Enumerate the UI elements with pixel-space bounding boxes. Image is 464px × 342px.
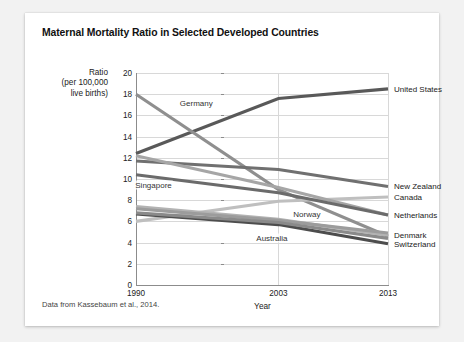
y-axis-title-line-3: live births) [45,89,108,99]
y-axis-title-line-2: (per 100,000 [45,78,108,88]
y-tick-label-2: 2 [127,259,132,268]
y-tick-mark-8 [221,200,224,201]
series-label-australia: Australia [255,234,288,243]
plot-area [136,73,388,285]
y-tick-label-18: 18 [123,90,132,99]
y-tick-label-14: 14 [123,132,132,141]
series-label-united-states: United States [394,84,442,93]
gridline-y-10 [136,179,388,180]
y-tick-mark-0 [221,285,224,286]
gridline-y-14 [136,137,388,138]
y-tick-label-20: 20 [123,69,132,78]
gridline-y-12 [136,158,388,159]
x-tick-label-2013: 2013 [379,289,397,298]
series-label-switzerland: Switzerland [394,239,435,248]
series-label-singapore: Singapore [134,181,172,190]
x-tick-label-2003: 2003 [269,289,287,298]
y-tick-label-16: 16 [123,111,132,120]
gridline-y-8 [136,200,388,201]
screenshot-canvas: Maternal Mortality Ratio in Selected Dev… [0,0,464,342]
x-axis-title: Year [136,301,389,311]
y-tick-mark-4 [221,243,224,244]
y-tick-label-10: 10 [123,175,132,184]
series-label-norway: Norway [292,209,321,218]
gridline-y-18 [136,94,388,95]
y-tick-label-4: 4 [127,238,132,247]
y-tick-mark-2 [221,264,224,265]
series-label-new-zealand: New Zealand [394,182,441,191]
y-tick-mark-6 [221,221,224,222]
series-label-netherlands: Netherlands [394,211,437,220]
gridline-y-16 [136,115,388,116]
x-axis-line [136,285,389,286]
y-axis-title-line-1: Ratio [45,68,108,78]
y-tick-mark-18 [221,94,224,95]
y-tick-label-8: 8 [127,196,132,205]
y-tick-mark-14 [221,137,224,138]
gridline-x-2013 [388,73,389,285]
y-tick-mark-20 [221,73,224,74]
y-tick-mark-10 [221,179,224,180]
y-tick-label-6: 6 [127,217,132,226]
gridline-x-2003 [278,73,279,285]
source-note: Data from Kassebaum et al., 2014. [42,300,159,309]
y-axis-tick-labels: 02468101214161820 [111,73,132,285]
chart-card: Maternal Mortality Ratio in Selected Dev… [25,13,439,326]
series-label-germany: Germany [179,98,214,107]
gridline-y-2 [136,264,388,265]
y-axis-title: Ratio (per 100,000 live births) [45,68,108,99]
gridline-y-20 [136,73,388,74]
y-tick-mark-16 [221,115,224,116]
x-tick-label-1990: 1990 [127,289,145,298]
series-label-canada: Canada [394,193,422,202]
y-tick-mark-12 [221,158,224,159]
y-axis-line [136,73,137,286]
y-tick-label-12: 12 [123,153,132,162]
chart-title: Maternal Mortality Ratio in Selected Dev… [42,27,319,38]
gridline-y-6 [136,221,388,222]
